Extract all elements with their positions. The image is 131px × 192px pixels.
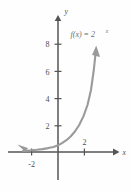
x-axis-arrow-icon <box>113 149 120 156</box>
function-label-group: f(x) = 2 x <box>71 28 109 39</box>
exponential-curve <box>23 54 96 151</box>
plot-canvas: 8 6 4 2 -2 2 y x f(x) = 2 x <box>0 0 131 192</box>
y-tick-label-4: 4 <box>46 95 50 104</box>
x-axis-label: x <box>122 148 127 157</box>
function-label: f(x) = 2 <box>71 30 96 39</box>
y-axis-arrow-icon <box>55 15 62 21</box>
function-label-exponent: x <box>105 28 109 34</box>
curve-arrow-upper-right-icon <box>92 46 100 57</box>
x-tick-label-minus2: -2 <box>28 160 35 169</box>
exponential-function-figure: 8 6 4 2 -2 2 y x f(x) = 2 x <box>0 0 131 192</box>
axes-group <box>8 15 120 180</box>
x-tick-label-2: 2 <box>82 138 86 147</box>
y-tick-label-8: 8 <box>46 40 50 49</box>
y-tick-label-2: 2 <box>46 122 50 131</box>
y-axis-label: y <box>64 7 69 16</box>
y-tick-label-6: 6 <box>46 68 50 77</box>
